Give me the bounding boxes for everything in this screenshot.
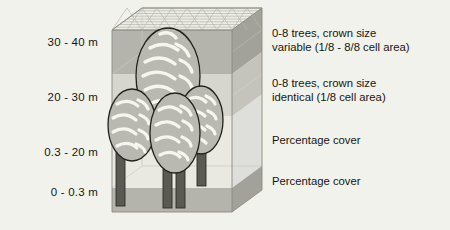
tree-left bbox=[108, 89, 156, 161]
crown-front-center bbox=[150, 93, 200, 173]
right-face-strata bbox=[232, 8, 262, 212]
tree-front-center bbox=[150, 93, 200, 173]
vegetation-structure-diagram: 30 - 40 m 20 - 30 m 0.3 - 20 m 0 - 0.3 m… bbox=[0, 0, 450, 230]
diagram-canvas bbox=[0, 0, 450, 230]
